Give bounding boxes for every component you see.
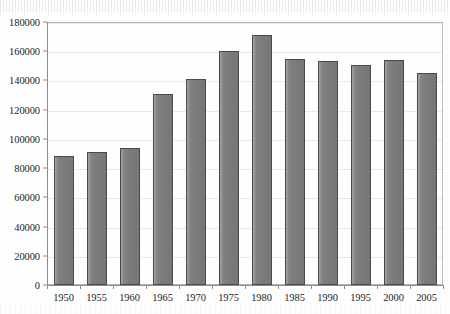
x-tick-mark [410, 285, 411, 289]
y-tick-label: 60000 [14, 192, 40, 203]
x-tick-label: 2005 [416, 292, 437, 303]
y-tick-label: 120000 [9, 104, 40, 115]
x-tick-mark [179, 285, 180, 289]
y-tick-mark [43, 109, 47, 110]
y-tick-mark [43, 255, 47, 256]
bar [384, 60, 404, 285]
x-tick-mark [113, 285, 114, 289]
x-tick-label: 1990 [317, 292, 338, 303]
x-tick-mark [245, 285, 246, 289]
bar [252, 35, 272, 285]
x-tick-mark [80, 285, 81, 289]
x-tick-mark [212, 285, 213, 289]
bar [54, 156, 74, 285]
y-axis-line [47, 22, 48, 285]
bar-chart-figure: 0200004000060000800001000001200001400001… [0, 0, 450, 314]
y-tick-label: 160000 [9, 46, 40, 57]
y-tick-mark [43, 80, 47, 81]
y-tick-mark [43, 22, 47, 23]
x-tick-mark [377, 285, 378, 289]
y-axis: 0200004000060000800001000001200001400001… [0, 0, 47, 314]
bar [120, 148, 140, 285]
y-tick-mark [43, 197, 47, 198]
bar [87, 152, 107, 285]
x-tick-label: 1950 [53, 292, 74, 303]
y-tick-label: 100000 [9, 133, 40, 144]
x-tick-label: 1970 [185, 292, 206, 303]
x-tick-label: 1985 [284, 292, 305, 303]
bar [186, 79, 206, 285]
x-tick-mark [311, 285, 312, 289]
y-tick-mark [43, 168, 47, 169]
x-tick-mark [344, 285, 345, 289]
x-tick-label: 1975 [218, 292, 239, 303]
y-tick-label: 0 [35, 280, 40, 291]
y-tick-mark [43, 138, 47, 139]
y-tick-label: 180000 [9, 17, 40, 28]
x-tick-label: 1965 [152, 292, 173, 303]
bar [285, 59, 305, 285]
x-tick-label: 1955 [86, 292, 107, 303]
x-axis: 1950195519601965197019751980198519901995… [47, 285, 443, 314]
bar [351, 65, 371, 285]
bar [417, 73, 437, 285]
bar-series [47, 22, 443, 285]
y-tick-mark [43, 226, 47, 227]
x-tick-label: 2000 [383, 292, 404, 303]
x-tick-label: 1960 [119, 292, 140, 303]
x-tick-label: 1995 [350, 292, 371, 303]
x-tick-mark [443, 285, 444, 289]
y-tick-label: 40000 [14, 221, 40, 232]
bar [318, 61, 338, 285]
y-tick-label: 140000 [9, 75, 40, 86]
x-tick-mark [278, 285, 279, 289]
x-tick-mark [146, 285, 147, 289]
x-tick-mark [47, 285, 48, 289]
bar [219, 51, 239, 285]
bar [153, 94, 173, 285]
y-tick-label: 80000 [14, 163, 40, 174]
x-tick-label: 1980 [251, 292, 272, 303]
y-tick-label: 20000 [14, 250, 40, 261]
y-tick-mark [43, 51, 47, 52]
